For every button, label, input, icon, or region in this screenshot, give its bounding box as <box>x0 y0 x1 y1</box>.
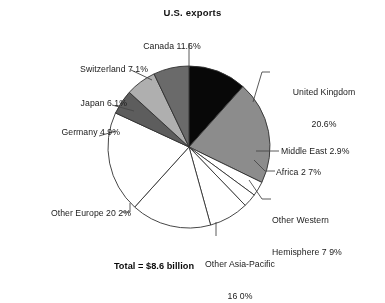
slice-label-other-western-line1: Other Western <box>272 215 382 226</box>
slice-label-germany: Germany 4 9% <box>10 127 120 138</box>
slice-label-united-kingdom-line2: 20.6% <box>272 119 376 130</box>
slice-label-middle-east: Middle East 2.9% <box>281 146 385 157</box>
leader-line-united-kingdom <box>253 72 270 102</box>
slice-label-africa: Africa 2 7% <box>276 167 376 178</box>
slice-label-canada: Canada 11.6% <box>118 41 226 52</box>
slice-label-other-europe: Other Europe 20 2% <box>6 208 131 219</box>
slice-label-united-kingdom-line1: United Kingdom <box>272 87 376 98</box>
slice-label-switzerland: Switzerland 7.1% <box>28 64 148 75</box>
pie-slice-group <box>108 66 270 228</box>
slice-label-japan: Japan 6 1% <box>27 98 127 109</box>
slice-label-united-kingdom: United Kingdom 20.6% <box>272 66 376 150</box>
total-note: Total = $8.6 billion <box>84 261 224 272</box>
slice-label-other-asia-line2: 16 0% <box>180 291 300 302</box>
